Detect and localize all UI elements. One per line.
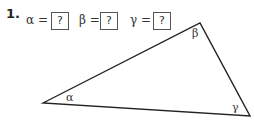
angle-gamma-label: γ xyxy=(232,101,239,114)
triangle xyxy=(43,23,250,116)
angle-beta-label: β xyxy=(192,27,198,40)
angle-alpha-label: α xyxy=(66,91,74,104)
triangle-diagram: α β γ xyxy=(0,0,254,122)
